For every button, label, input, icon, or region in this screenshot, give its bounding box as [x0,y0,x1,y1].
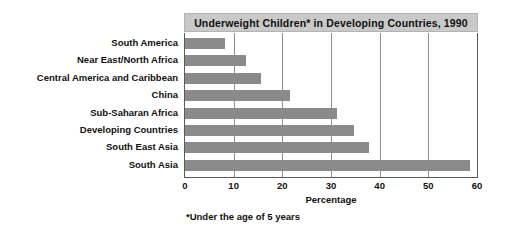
bar-row [185,122,477,139]
bar [185,125,354,136]
category-label: Central America and Caribbean [0,72,178,83]
bar-row [185,87,477,104]
category-label: South East Asia [0,141,178,152]
x-tick-label: 30 [326,180,337,191]
x-tick-label: 40 [374,180,385,191]
x-tick-label: 10 [228,180,239,191]
category-label: Near East/North Africa [0,54,178,65]
x-axis-tick-labels: 0102030405060 [184,180,478,193]
bar-row [185,139,477,156]
category-label: China [0,89,178,100]
x-tick-label: 20 [277,180,288,191]
bar [185,90,290,101]
bar [185,38,225,49]
bar-row [185,70,477,87]
x-axis-title: Percentage [184,194,478,205]
bar [185,73,261,84]
chart-footnote: *Under the age of 5 years [186,211,300,222]
chart-title: Underweight Children* in Developing Coun… [194,17,468,29]
category-label: South Asia [0,159,178,170]
bar-row [185,52,477,69]
category-label: Developing Countries [0,124,178,135]
x-tick-label: 0 [182,180,187,191]
bar-row [185,157,477,174]
x-tick-label: 60 [472,180,483,191]
chart-title-band: Underweight Children* in Developing Coun… [184,13,478,32]
bar-row [185,35,477,52]
plot-area [184,33,478,178]
bar [185,55,246,66]
bar [185,108,337,119]
bar [185,142,369,153]
category-label: South America [0,37,178,48]
category-axis-labels: South AmericaNear East/North AfricaCentr… [0,36,178,175]
bar [185,160,470,171]
category-label: Sub-Saharan Africa [0,107,178,118]
bar-chart: Underweight Children* in Developing Coun… [0,0,506,232]
bar-row [185,105,477,122]
x-tick-label: 50 [423,180,434,191]
